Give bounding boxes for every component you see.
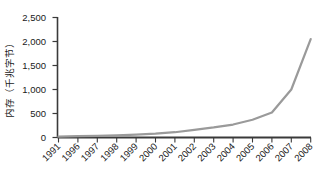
y-tick-label-2500: 2,500 [22, 12, 46, 23]
y-tick-label-2000: 2,000 [22, 36, 46, 47]
y-axis-title: 内存（千兆字节） [4, 38, 15, 118]
y-tick-label-1000: 1,000 [22, 84, 46, 95]
y-tick-label-500: 500 [30, 108, 46, 119]
chart-canvas: 2,500 2,000 1,500 1,000 500 0 内存（千兆字节） [0, 0, 314, 171]
memory-growth-line-chart: 2,500 2,000 1,500 1,000 500 0 内存（千兆字节） [0, 0, 314, 171]
y-tick-label-0: 0 [41, 132, 46, 143]
y-axis-title-group: 内存（千兆字节） [4, 38, 15, 118]
y-tick-label-1500: 1,500 [22, 60, 46, 71]
